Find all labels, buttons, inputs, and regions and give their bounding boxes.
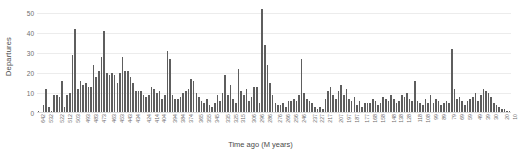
bar xyxy=(177,99,179,113)
x-axis-tick-label: 642 xyxy=(40,114,46,123)
bar xyxy=(169,59,171,113)
x-axis-tick-label: 168 xyxy=(372,114,378,123)
x-axis-tick-label: 404 xyxy=(161,114,167,123)
bar xyxy=(454,89,456,113)
x-axis-tick-label: 197 xyxy=(346,114,352,123)
bar xyxy=(180,97,182,113)
bar xyxy=(122,57,124,113)
x-axis-tick-label: 108 xyxy=(425,114,431,123)
bar xyxy=(340,85,342,113)
x-axis-tick-label: 237 xyxy=(312,114,318,123)
bar xyxy=(119,73,121,113)
bar xyxy=(232,99,234,113)
x-axis-tick-label: 10 xyxy=(512,114,518,120)
x-axis-tick-label: 207 xyxy=(338,114,344,123)
bar xyxy=(346,89,348,113)
bar xyxy=(90,87,92,113)
bar xyxy=(409,99,411,113)
bar xyxy=(174,99,176,113)
bar xyxy=(98,71,100,113)
x-axis-tick-label: 483 xyxy=(93,114,99,123)
x-axis-tick-label: 306 xyxy=(251,114,257,123)
bar xyxy=(109,75,111,113)
bar-series xyxy=(37,13,511,113)
bar xyxy=(80,81,82,113)
bar xyxy=(114,75,116,113)
x-axis-tick-label: 384 xyxy=(180,114,186,123)
bar xyxy=(385,99,387,113)
x-axis-tick-label: 39 xyxy=(485,114,491,120)
bar xyxy=(101,57,103,113)
bar xyxy=(217,95,219,113)
x-axis-tick-label: 187 xyxy=(354,114,360,123)
x-axis-baseline xyxy=(37,112,511,113)
bar xyxy=(151,87,153,113)
bar xyxy=(475,93,477,113)
bar xyxy=(480,95,482,113)
x-axis-title: Time ago (M years) xyxy=(0,140,521,149)
x-axis-tick-label: 512 xyxy=(67,114,73,123)
y-axis-tick-labels: 01020304050 xyxy=(0,0,37,157)
bar xyxy=(298,95,300,113)
bar xyxy=(124,71,126,113)
bar xyxy=(88,87,90,113)
bar xyxy=(93,65,95,113)
bar xyxy=(185,91,187,113)
bar xyxy=(243,95,245,113)
x-axis-tick-label: 276 xyxy=(277,114,283,123)
bar xyxy=(256,87,258,113)
bar xyxy=(459,97,461,113)
bar xyxy=(390,95,392,113)
x-axis-tick-label: 414 xyxy=(154,114,160,123)
bar xyxy=(230,85,232,113)
bar xyxy=(253,87,255,113)
x-axis-tick-label: 473 xyxy=(101,114,107,123)
bar xyxy=(425,99,427,113)
x-axis-tick-label: 148 xyxy=(391,114,397,123)
x-axis-tick-label: 463 xyxy=(111,114,117,123)
bar xyxy=(66,95,68,113)
bar xyxy=(95,77,97,113)
bar xyxy=(332,95,334,113)
bar xyxy=(61,81,63,113)
x-axis-tick-label: 434 xyxy=(135,114,141,123)
bar xyxy=(414,81,416,113)
bar xyxy=(111,73,113,113)
x-axis-tick-label: 365 xyxy=(198,114,204,123)
bar xyxy=(335,99,337,113)
x-axis-tick-label: 394 xyxy=(172,114,178,123)
bar xyxy=(45,89,47,113)
bar xyxy=(82,85,84,113)
bar xyxy=(269,83,271,113)
bar xyxy=(451,49,453,113)
bar xyxy=(404,97,406,113)
x-axis-tick-label: 118 xyxy=(417,114,423,122)
x-axis-tick-label: 325 xyxy=(233,114,239,123)
x-axis-tick-label: 138 xyxy=(398,114,404,123)
bar xyxy=(306,99,308,113)
x-axis-tick-label: 443 xyxy=(127,114,133,123)
bar xyxy=(301,59,303,113)
bar xyxy=(159,91,161,113)
x-axis-tick-label: 453 xyxy=(119,114,125,123)
bar xyxy=(161,99,163,113)
bar xyxy=(117,83,119,113)
bar xyxy=(327,91,329,113)
bar xyxy=(77,89,79,113)
bar xyxy=(140,91,142,113)
bar xyxy=(135,91,137,113)
x-axis-tick-label: 177 xyxy=(364,114,370,123)
bar xyxy=(206,99,208,113)
x-axis-tick-label: 99 xyxy=(433,114,439,120)
bar xyxy=(372,99,374,113)
bar xyxy=(127,71,129,113)
x-axis-tick-label: 217 xyxy=(327,114,333,123)
x-axis-tick-label: 266 xyxy=(285,114,291,123)
y-axis-tick-label: 30 xyxy=(27,50,34,57)
bar xyxy=(182,93,184,113)
x-axis-tick-label: 286 xyxy=(267,114,273,123)
bar xyxy=(338,91,340,113)
y-axis-tick-label: 50 xyxy=(27,10,34,17)
bar xyxy=(103,31,105,113)
bar xyxy=(483,89,485,113)
